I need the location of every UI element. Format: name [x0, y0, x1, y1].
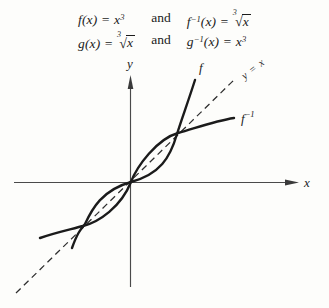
x-axis-arrowhead [285, 180, 299, 186]
curve-f-label: f [199, 60, 205, 75]
y-axis-arrowhead [128, 75, 134, 89]
identity-line-label: y = x [238, 56, 267, 82]
function-graph: y x f f−1 y = x [0, 0, 329, 308]
identity-line [16, 78, 236, 293]
x-axis-label: x [303, 175, 310, 190]
curve-f-inverse [40, 118, 234, 238]
curve-f-inverse-label: f−1 [241, 109, 255, 126]
textbook-figure: f(x) = x3 and f−1(x) = 3√x g(x) = 3√x an… [0, 0, 329, 308]
curve-f-inverse-label-sup: −1 [245, 109, 255, 119]
y-axis-label: y [125, 56, 133, 71]
